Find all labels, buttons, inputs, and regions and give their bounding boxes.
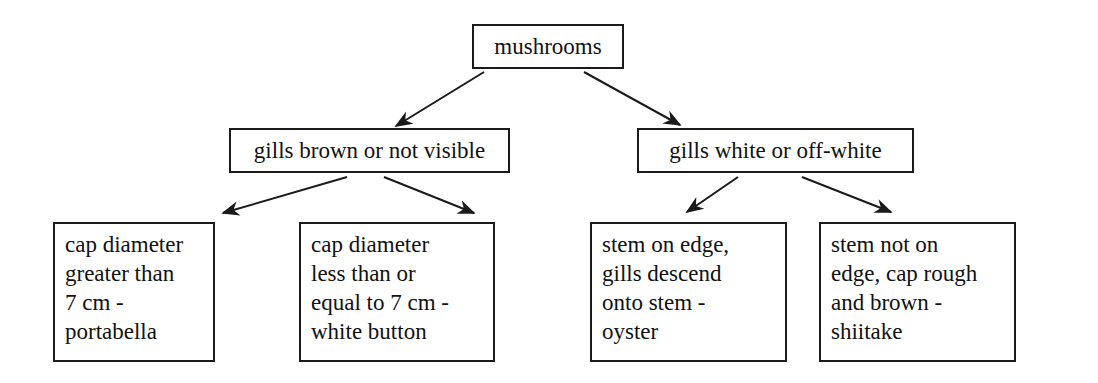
leaf-line: edge, cap rough	[831, 259, 1004, 288]
edge-gills-white-to-oyster	[687, 177, 738, 212]
node-gills-brown: gills brown or not visible	[229, 128, 510, 173]
leaf-line: 7 cm -	[65, 288, 203, 317]
leaf-line: portabella	[65, 317, 203, 346]
leaf-line: cap diameter	[311, 230, 483, 259]
leaf-line: equal to 7 cm -	[311, 288, 483, 317]
leaf-line: cap diameter	[65, 230, 203, 259]
leaf-shiitake: stem not on edge, cap rough and brown - …	[819, 222, 1016, 362]
leaf-line: stem not on	[831, 230, 1004, 259]
root-node: mushrooms	[472, 24, 624, 69]
leaf-line: oyster	[602, 317, 775, 346]
edge-gills-brown-to-white-button	[384, 177, 474, 213]
leaf-portabella: cap diameter greater than 7 cm - portabe…	[53, 222, 215, 362]
node-gills-brown-label: gills brown or not visible	[254, 136, 485, 165]
leaf-line: gills descend	[602, 259, 775, 288]
root-label: mushrooms	[494, 32, 601, 61]
leaf-line: greater than	[65, 259, 203, 288]
leaf-white-button: cap diameter less than or equal to 7 cm …	[299, 222, 495, 362]
node-gills-white-label: gills white or off-white	[669, 136, 881, 165]
leaf-line: and brown -	[831, 288, 1004, 317]
edge-gills-brown-to-portabella	[223, 177, 347, 213]
leaf-oyster: stem on edge, gills descend onto stem - …	[590, 222, 787, 362]
leaf-line: less than or	[311, 259, 483, 288]
leaf-line: shiitake	[831, 317, 1004, 346]
node-gills-white: gills white or off-white	[637, 128, 914, 173]
leaf-line: stem on edge,	[602, 230, 775, 259]
edge-gills-white-to-shiitake	[802, 177, 891, 212]
leaf-line: white button	[311, 317, 483, 346]
edge-root-to-gills-brown	[396, 72, 484, 126]
edge-root-to-gills-white	[584, 72, 680, 125]
leaf-line: onto stem -	[602, 288, 775, 317]
